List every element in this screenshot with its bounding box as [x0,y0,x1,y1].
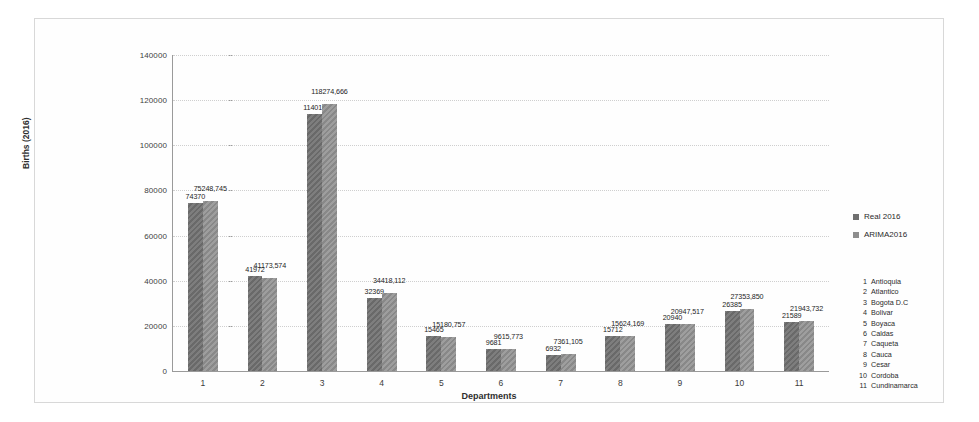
bar-real-2016[interactable]: 74370 [188,203,203,371]
department-number: 7 [851,339,867,349]
department-name: Bolivar [871,308,893,318]
bar-arima-2016[interactable]: 34418,112 [382,293,397,371]
x-axis-title: Departments [35,391,943,401]
plot-area: 7437075248,74514197241173,57421140131182… [173,55,829,371]
bar-value-label: 15624,169 [611,319,644,328]
department-number: 2 [851,287,867,297]
department-key-row: 2Atlantico [851,287,971,297]
bar-group: 96819615,7736 [486,55,516,371]
chart-legend: Real 2016ARIMA2016 [853,212,953,248]
department-number: 4 [851,308,867,318]
bar-group: 7437075248,7451 [188,55,218,371]
department-number: 5 [851,319,867,329]
bar-real-2016[interactable]: 9681 [486,349,501,371]
department-name: Antioquia [871,277,901,287]
y-tick-label: 40000 [144,276,167,285]
bar-arima-2016[interactable]: 15624,169 [620,336,635,371]
bar-value-label: 26385 [722,300,742,309]
figure-frame: Births (2016) 14000012000010000080000600… [34,18,944,403]
bar-value-label: 41173,574 [254,261,287,270]
department-key-row: 6Caldas [851,329,971,339]
bar-arima-2016[interactable]: 21943,732 [799,321,814,371]
bar-value-label: 21943,732 [790,304,823,313]
bar-value-label: 27353,850 [730,292,763,301]
department-number: 9 [851,360,867,370]
bar-arima-2016[interactable]: 7361,105 [561,354,576,371]
bar-value-label: 118274,666 [311,87,347,96]
x-tick-label: 4 [379,378,384,388]
bar-group: 2638527353,85010 [725,55,755,371]
bar-arima-2016[interactable]: 75248,745 [203,201,218,371]
bar-real-2016[interactable]: 41972 [248,276,263,371]
legend-label: Real 2016 [864,212,900,221]
y-tick-label: 60000 [144,231,167,240]
department-name: Cesar [871,360,890,370]
y-axis-tick-labels: 140000120000100000800006000040000200000 [95,19,167,422]
department-number: 11 [851,381,867,391]
bar-arima-2016[interactable]: 15180,757 [441,337,456,371]
department-name: Caqueta [871,339,898,349]
legend-label: ARIMA2016 [864,230,907,239]
bar-group: 3236934418,1124 [367,55,397,371]
x-tick-label: 10 [735,378,744,388]
bar-real-2016[interactable]: 32369 [367,298,382,371]
x-tick-label: 5 [439,378,444,388]
department-name: Cundinamarca [871,381,918,391]
department-number: 6 [851,329,867,339]
department-name: Atlantico [871,287,899,297]
y-tick-label: 20000 [144,321,167,330]
department-key-row: 8Cauca [851,350,971,360]
x-tick-label: 8 [618,378,623,388]
y-tick-label: 120000 [140,96,167,105]
department-number: 1 [851,277,867,287]
bar-real-2016[interactable]: 20940 [665,324,680,371]
bar-arima-2016[interactable]: 27353,850 [740,309,755,371]
department-key-row: 3Bogota D.C [851,298,971,308]
x-tick-label: 9 [678,378,683,388]
department-name: Boyaca [871,319,895,329]
department-key-row: 4Bolivar [851,308,971,318]
department-key-row: 11Cundinamarca [851,381,971,391]
bar-real-2016[interactable]: 15465 [426,336,441,371]
bar-real-2016[interactable]: 114013 [307,114,322,371]
department-name: Bogota D.C [871,298,908,308]
department-number: 3 [851,298,867,308]
y-tick-label: 80000 [144,186,167,195]
bar-real-2016[interactable]: 21589 [784,322,799,371]
bar-real-2016[interactable]: 6932 [546,355,561,371]
legend-item[interactable]: ARIMA2016 [853,230,953,239]
department-key-row: 5Boyaca [851,319,971,329]
bar-arima-2016[interactable]: 9615,773 [501,349,516,371]
legend-swatch-icon [853,232,859,238]
bar-group: 114013118274,6663 [307,55,337,371]
department-name: Caldas [871,329,893,339]
department-number: 10 [851,371,867,381]
x-tick-label: 2 [260,378,265,388]
x-axis-line [172,371,829,372]
bar-arima-2016[interactable]: 118274,666 [322,104,337,371]
bar-group: 2158921943,73211 [784,55,814,371]
y-axis-title: Births (2016) [21,118,31,170]
bar-real-2016[interactable]: 15712 [605,336,620,371]
bar-group: 1571215624,1698 [605,55,635,371]
bar-real-2016[interactable]: 26385 [725,311,740,371]
department-key-row: 7Caqueta [851,339,971,349]
bar-value-label: 74370 [186,192,206,201]
department-name: Cauca [871,350,892,360]
bar-group: 4197241173,5742 [248,55,278,371]
department-key-list: 1Antioquia2Atlantico3Bogota D.C4Bolivar5… [851,277,971,391]
legend-item[interactable]: Real 2016 [853,212,953,221]
department-key-row: 10Cordoba [851,371,971,381]
bar-arima-2016[interactable]: 20947,517 [680,324,695,371]
bar-group: 2094020947,5179 [665,55,695,371]
x-tick-label: 1 [200,378,205,388]
x-tick-label: 3 [320,378,325,388]
department-key-row: 1Antioquia [851,277,971,287]
department-number: 8 [851,350,867,360]
bar-value-label: 15180,757 [432,320,465,329]
department-key-row: 9Cesar [851,360,971,370]
bar-group: 1546515180,7575 [426,55,456,371]
x-tick-label: 11 [795,378,804,388]
bar-arima-2016[interactable]: 41173,574 [262,278,277,371]
bar-value-label: 20947,517 [671,307,704,316]
